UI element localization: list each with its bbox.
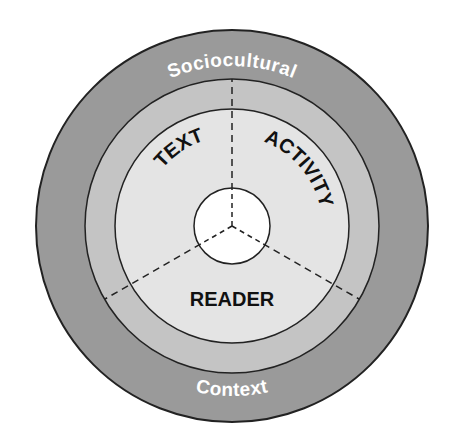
label-reader: READER (190, 288, 275, 310)
reading-model-diagram: Sociocultural Context TEXT ACTIVITY READ… (0, 0, 453, 443)
